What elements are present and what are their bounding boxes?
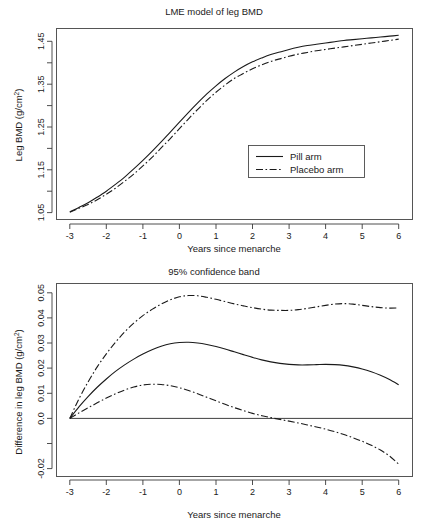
y-tick-label-bottom-0: -0.02 [36,458,46,479]
lme-model-chart: LME model of leg BMD Leg BMD (g/cm2) Yea… [0,0,428,262]
legend-label-placebo-arm: Placebo arm [290,164,343,175]
x-tick-label-top-9: 6 [396,231,401,241]
x-tick-label-bottom-2: -1 [139,487,147,497]
y-tick-label-bottom-4: 0.02 [36,359,46,377]
plot-frame-bottom [57,284,413,477]
y-axis-label-top-close: ) [13,89,24,92]
x-tick-label-bottom-7: 4 [323,487,328,497]
x-tick-label-bottom-1: -2 [102,487,110,497]
x-axis-label-top: Years since menarche [187,243,281,254]
x-tick-label-bottom-9: 6 [396,487,401,497]
svg-text:Difference in leg BMD (g/cm2): Difference in leg BMD (g/cm2) [13,329,24,454]
y-tick-label-top-0: 1.05 [36,204,46,222]
x-tick-label-bottom-0: -3 [66,487,74,497]
y-axis-label-bottom-base: Difference in leg BMD (g/cm [13,336,24,455]
x-tick-label-top-5: 2 [250,231,255,241]
x-axis-label-bottom: Years since menarche [187,509,281,520]
svg-text:Leg BMD (g/cm2): Leg BMD (g/cm2) [13,89,24,162]
x-tick-label-top-1: -2 [102,231,110,241]
x-axis-top: -3 -2 -1 0 1 2 3 4 5 6 [66,224,401,241]
plot-frame-top [57,29,413,220]
panel-confidence-band: 95% confidence band Difference in leg BM… [0,262,428,530]
x-tick-label-top-4: 1 [213,231,218,241]
y-axis-label-top: Leg BMD (g/cm2) [13,89,24,162]
y-tick-label-bottom-3: 0.01 [36,385,46,403]
x-tick-label-top-7: 4 [323,231,328,241]
figure-container: LME model of leg BMD Leg BMD (g/cm2) Yea… [0,0,428,530]
y-tick-label-top-4: 1.25 [36,118,46,136]
y-axis-label-top-base: Leg BMD (g/cm [13,95,24,161]
x-tick-label-bottom-4: 1 [213,487,218,497]
chart-title-bottom: 95% confidence band [168,266,259,277]
y-tick-label-top-2: 1.15 [36,161,46,179]
x-tick-label-bottom-3: 0 [177,487,182,497]
legend-top[interactable]: Pill arm Placebo arm [249,146,365,178]
x-tick-label-top-3: 0 [177,231,182,241]
y-tick-label-bottom-6: 0.04 [36,309,46,327]
panel-lme-model: LME model of leg BMD Leg BMD (g/cm2) Yea… [0,0,428,262]
curve-placebo-arm [70,39,399,212]
x-tick-label-top-2: -1 [139,231,147,241]
y-tick-label-top-8: 1.45 [36,33,46,51]
y-axis-label-bottom: Difference in leg BMD (g/cm2) [13,329,24,454]
x-tick-label-top-8: 5 [360,231,365,241]
x-tick-label-bottom-5: 2 [250,487,255,497]
x-tick-label-bottom-6: 3 [287,487,292,497]
x-tick-label-top-6: 3 [287,231,292,241]
y-axis-label-bottom-close: ) [13,329,24,332]
data-curves-bottom [70,295,399,464]
curve-upper-ci-bound [70,295,399,418]
x-tick-label-bottom-8: 5 [360,487,365,497]
confidence-band-chart: 95% confidence band Difference in leg BM… [0,262,428,530]
y-axis-top: 1.05 1.15 1.25 1.35 1.45 [36,33,52,222]
y-tick-label-bottom-2: 0.0 [36,412,46,425]
y-tick-label-bottom-5: 0.03 [36,334,46,352]
x-axis-bottom: -3 -2 -1 0 1 2 3 4 5 6 [66,480,401,497]
x-tick-label-top-0: -3 [66,231,74,241]
curve-estimated-difference [70,342,399,418]
y-tick-label-bottom-7: 0.05 [36,284,46,302]
y-tick-label-top-6: 1.35 [36,75,46,93]
legend-label-pill-arm: Pill arm [290,151,322,162]
y-axis-bottom: -0.02 0.0 0.01 0.02 0.03 0.04 0.05 [36,284,52,479]
curve-lower-ci-bound [70,384,399,464]
data-curves-top [70,35,399,212]
chart-title-top: LME model of leg BMD [165,6,263,17]
